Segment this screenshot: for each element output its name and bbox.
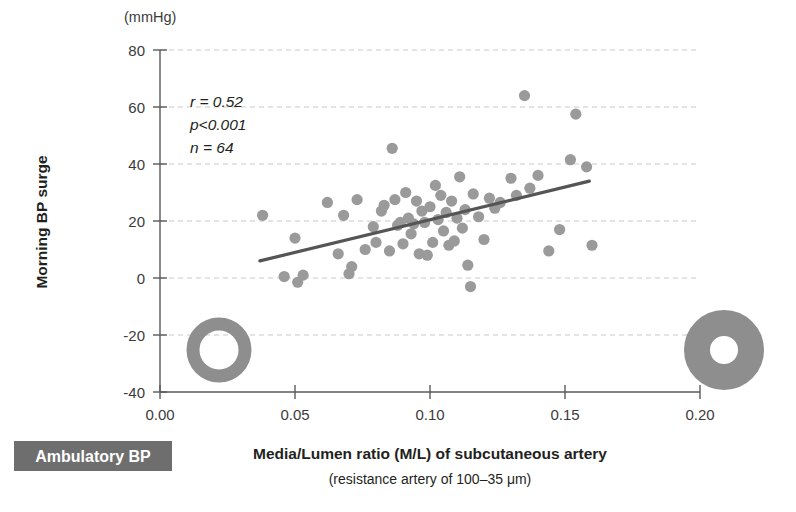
scatter-point: [400, 187, 411, 198]
scatter-point: [333, 248, 344, 259]
scatter-point: [465, 281, 476, 292]
stat-p: p<0.001: [189, 116, 246, 133]
y-tick-label-20: 20: [128, 213, 145, 230]
x-tick-label-020: 0.20: [685, 406, 714, 423]
scatter-point: [484, 193, 495, 204]
scatter-point: [581, 161, 592, 172]
scatter-point: [422, 250, 433, 261]
scatter-point: [570, 109, 581, 120]
x-tick-label-000: 0.00: [145, 406, 174, 423]
scatter-point: [370, 237, 381, 248]
scatter-point: [352, 194, 363, 205]
thick-wall-vessel-ring-icon: [697, 323, 751, 377]
statistics-annotation: r = 0.52 p<0.001 n = 64: [189, 93, 246, 156]
scatter-point: [478, 234, 489, 245]
scatter-point: [411, 195, 422, 206]
scatter-point: [449, 235, 460, 246]
y-tick-label-minus20: -20: [123, 327, 145, 344]
x-tick-label-005: 0.05: [280, 406, 309, 423]
scatter-point: [457, 223, 468, 234]
scatter-point: [384, 245, 395, 256]
stat-n: n = 64: [190, 139, 234, 156]
scatter-point: [360, 244, 371, 255]
scatter-point: [519, 90, 530, 101]
scatter-plot-figure: 80 60 40 20 0 -20 -40 0.00 0.05 0.10 0.1…: [0, 0, 796, 512]
y-tick-label-40: 40: [128, 156, 145, 173]
scatter-point: [427, 237, 438, 248]
y-tick-label-0: 0: [137, 270, 145, 287]
x-tick-labels: 0.00 0.05 0.10 0.15 0.20: [145, 406, 714, 423]
scatter-point: [446, 195, 457, 206]
scatter-point: [279, 271, 290, 282]
y-axis-title: Morning BP surge: [33, 155, 50, 289]
scatter-point: [406, 228, 417, 239]
scatter-point: [322, 197, 333, 208]
scatter-point: [473, 211, 484, 222]
scatter-point: [289, 233, 300, 244]
x-axis-subtitle: (resistance artery of 100–35 μm): [329, 471, 532, 487]
y-axis-unit-label: (mmHg): [124, 9, 176, 25]
scatter-point: [338, 210, 349, 221]
scatter-point: [468, 188, 479, 199]
scatter-point: [435, 190, 446, 201]
thin-wall-vessel-ring-icon: [193, 324, 245, 376]
scatter-point: [543, 245, 554, 256]
y-tick-label-60: 60: [128, 99, 145, 116]
scatter-point: [346, 261, 357, 272]
scatter-point: [565, 154, 576, 165]
y-tick-label-80: 80: [128, 42, 145, 59]
scatter-point: [454, 171, 465, 182]
x-axis-title: Media/Lumen ratio (M/L) of subcutaneous …: [253, 445, 607, 462]
scatter-point: [430, 180, 441, 191]
scatter-point: [438, 225, 449, 236]
scatter-point: [524, 183, 535, 194]
scatter-point: [389, 194, 400, 205]
ambulatory-bp-badge: Ambulatory BP: [14, 441, 172, 471]
scatter-point: [298, 270, 309, 281]
scatter-point: [257, 210, 268, 221]
scatter-point: [368, 221, 379, 232]
scatter-point: [505, 173, 516, 184]
x-tick-label-015: 0.15: [550, 406, 579, 423]
chart-svg: 80 60 40 20 0 -20 -40 0.00 0.05 0.10 0.1…: [0, 0, 796, 512]
scatter-point: [397, 238, 408, 249]
badge-label: Ambulatory BP: [35, 448, 151, 465]
x-tick-label-010: 0.10: [415, 406, 444, 423]
scatter-point: [387, 143, 398, 154]
scatter-point: [462, 260, 473, 271]
scatter-point: [424, 201, 435, 212]
stat-r: r = 0.52: [190, 93, 243, 110]
y-tick-labels: 80 60 40 20 0 -20 -40: [123, 42, 145, 401]
scatter-point: [379, 200, 390, 211]
scatter-point: [532, 170, 543, 181]
scatter-point: [586, 240, 597, 251]
scatter-point: [554, 224, 565, 235]
y-tick-label-minus40: -40: [123, 384, 145, 401]
